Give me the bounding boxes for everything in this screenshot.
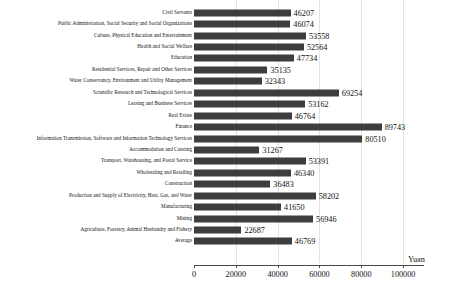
bar-area: 46769 [194, 236, 468, 247]
bar-area: 56946 [194, 213, 468, 224]
bar [194, 192, 316, 199]
bar-value-label: 35135 [267, 65, 290, 74]
bar [194, 135, 362, 142]
category-label: Information Transmission, Software and I… [37, 136, 192, 141]
category-label: Health and Social Welfare [137, 44, 192, 49]
bar-value-label: 46074 [290, 20, 313, 29]
chart-row: Education47734 [0, 53, 468, 64]
bar [194, 124, 382, 131]
category-label: Wholesaling and Retailing [136, 170, 192, 175]
bar [194, 32, 306, 39]
category-label: Education [171, 56, 192, 61]
bar-area: 53162 [194, 99, 468, 110]
category-label: Real Estate [168, 113, 192, 118]
bar-value-label: 80510 [362, 134, 385, 143]
axis-tick-label: 40000 [267, 270, 287, 279]
bar [194, 215, 313, 222]
axis-tick [278, 265, 279, 268]
chart-row: Finance89743 [0, 121, 468, 132]
bar [194, 9, 291, 16]
chart-row: Real Estate46764 [0, 110, 468, 121]
axis-tick-label: 20000 [226, 270, 246, 279]
bar-area: 53558 [194, 30, 468, 41]
chart-row: Agriculture, Forestry, Animal Husbandry … [0, 224, 468, 235]
chart-rows: Civil Servants46207Public Administration… [0, 7, 468, 247]
chart-row: Production and Supply of Electricity, He… [0, 190, 468, 201]
axis-tick-label: 80000 [351, 270, 371, 279]
category-label: Public Administration, Social Security a… [58, 21, 192, 26]
chart-row: Culture, Physical Education and Entertai… [0, 30, 468, 41]
chart-row: Scientific Research and Technological Se… [0, 87, 468, 98]
bar-value-label: 52564 [304, 43, 327, 52]
bar-area: 69254 [194, 87, 468, 98]
bar-area: 22687 [194, 224, 468, 235]
bar-area: 89743 [194, 121, 468, 132]
chart-row: Mining56946 [0, 213, 468, 224]
bar-value-label: 31267 [259, 145, 282, 154]
bar [194, 55, 294, 62]
axis-tick [194, 265, 195, 268]
category-label: Finance [176, 124, 192, 129]
bar [194, 146, 259, 153]
bar-value-label: 89743 [382, 123, 405, 132]
bar [194, 21, 290, 28]
chart-row: Water Conservancy, Environment and Utili… [0, 76, 468, 87]
category-label: Leasing and Business Services [128, 102, 192, 107]
category-label: Scientific Research and Technological Se… [93, 90, 192, 95]
bar-value-label: 56946 [313, 214, 336, 223]
axis-tick-label: 60000 [309, 270, 329, 279]
bar [194, 89, 339, 96]
axis-tick [236, 265, 237, 268]
bar-area: 80510 [194, 133, 468, 144]
bar-area: 52564 [194, 41, 468, 52]
bar-value-label: 53558 [306, 31, 329, 40]
bar-value-label: 53162 [305, 100, 328, 109]
bar-area: 53391 [194, 156, 468, 167]
chart-row: Average46769 [0, 236, 468, 247]
axis-tick [361, 265, 362, 268]
category-label: Transport, Warehousing, and Postal Servi… [101, 159, 192, 164]
bar [194, 204, 281, 211]
chart-row: Construction36483 [0, 179, 468, 190]
bar [194, 44, 304, 51]
axis-unit-label: Yuan [408, 255, 425, 264]
bar-value-label: 32343 [262, 77, 285, 86]
chart-row: Residential Services, Repair and Other S… [0, 64, 468, 75]
bar-area: 41650 [194, 201, 468, 212]
chart-row: Public Administration, Social Security a… [0, 18, 468, 29]
bar-area: 46207 [194, 7, 468, 18]
axis-line [194, 265, 424, 266]
bar-value-label: 69254 [339, 88, 362, 97]
category-label: Agriculture, Forestry, Animal Husbandry … [80, 227, 192, 232]
chart-row: Civil Servants46207 [0, 7, 468, 18]
bar-value-label: 47734 [294, 54, 317, 63]
category-label: Residential Services, Repair and Other S… [92, 67, 192, 72]
bar-value-label: 46764 [292, 111, 315, 120]
bar-area: 46074 [194, 18, 468, 29]
bar-value-label: 22687 [241, 226, 264, 235]
axis-tick-label: 100000 [391, 270, 416, 279]
axis-tick [319, 265, 320, 268]
category-label: Accommodation and Catering [129, 147, 192, 152]
bar [194, 112, 292, 119]
axis-tick-label: 0 [192, 270, 196, 279]
bar [194, 78, 262, 85]
chart-row: Transport, Warehousing, and Postal Servi… [0, 156, 468, 167]
axis-tick [403, 265, 404, 268]
chart-row: Accommodation and Catering31267 [0, 144, 468, 155]
category-label: Production and Supply of Electricity, He… [69, 193, 192, 198]
bar-area: 47734 [194, 53, 468, 64]
bar [194, 158, 306, 165]
bar-area: 35135 [194, 64, 468, 75]
bar [194, 227, 241, 234]
chart-row: Manufacturing41650 [0, 201, 468, 212]
category-label: Mining [177, 216, 192, 221]
bar-value-label: 58202 [316, 191, 339, 200]
category-label: Construction [165, 182, 192, 187]
bar [194, 238, 292, 245]
chart-row: Information Transmission, Software and I… [0, 133, 468, 144]
bar [194, 169, 291, 176]
bar-value-label: 46769 [292, 237, 315, 246]
bar-area: 46764 [194, 110, 468, 121]
bar-area: 58202 [194, 190, 468, 201]
